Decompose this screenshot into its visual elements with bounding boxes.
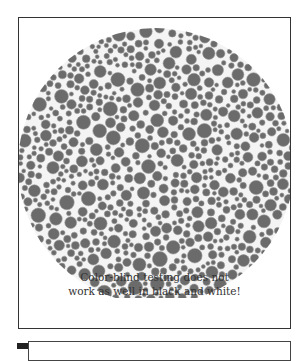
color-blind-test-plate (19, 18, 291, 298)
figure-caption: Color-blind testing does not work as wel… (19, 270, 290, 298)
next-figure-frame (28, 341, 291, 361)
caption-line-2: work as well in black and white! (19, 284, 290, 298)
figure-frame: Color-blind testing does not work as wel… (18, 17, 291, 329)
caption-line-1: Color-blind testing does not (19, 270, 290, 284)
